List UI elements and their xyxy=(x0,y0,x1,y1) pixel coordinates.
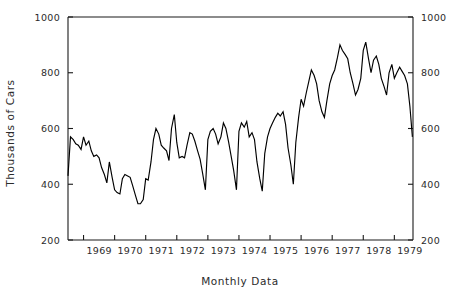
x-tick-label: 1979 xyxy=(397,245,422,256)
chart-figure: 2004006008001000 2004006008001000 196919… xyxy=(0,0,455,298)
y-tick-label-right: 600 xyxy=(421,123,440,134)
x-ticks-group: 1969197019711972197319741975197619771978… xyxy=(84,235,423,256)
y-ticks-right-group: 2004006008001000 xyxy=(408,12,446,246)
line-chart-canvas: 2004006008001000 2004006008001000 196919… xyxy=(0,0,455,298)
x-tick-label: 1972 xyxy=(180,245,205,256)
y-tick-label-left: 600 xyxy=(41,123,60,134)
x-tick-label: 1971 xyxy=(149,245,174,256)
x-tick-label: 1978 xyxy=(366,245,391,256)
y-axis-title: Thousands of Cars xyxy=(4,79,16,187)
x-tick-label: 1969 xyxy=(86,245,111,256)
y-ticks-left-group: 2004006008001000 xyxy=(35,12,73,246)
y-tick-label-left: 200 xyxy=(41,235,60,246)
x-tick-label: 1976 xyxy=(304,245,329,256)
y-tick-label-right: 800 xyxy=(421,67,440,78)
x-axis-title: Monthly Data xyxy=(201,275,279,287)
x-tick-label: 1973 xyxy=(211,245,236,256)
plot-frame xyxy=(68,17,413,240)
x-tick-label: 1977 xyxy=(335,245,360,256)
y-tick-label-left: 800 xyxy=(41,67,60,78)
y-tick-label-left: 400 xyxy=(41,179,60,190)
x-tick-label: 1975 xyxy=(273,245,298,256)
x-tick-label: 1974 xyxy=(242,245,267,256)
y-tick-label-right: 200 xyxy=(421,235,440,246)
series-line-monthly-car-sales xyxy=(68,42,412,204)
x-tick-label: 1970 xyxy=(118,245,143,256)
y-tick-label-left: 1000 xyxy=(35,12,60,23)
y-tick-label-right: 400 xyxy=(421,179,440,190)
y-tick-label-right: 1000 xyxy=(421,12,446,23)
